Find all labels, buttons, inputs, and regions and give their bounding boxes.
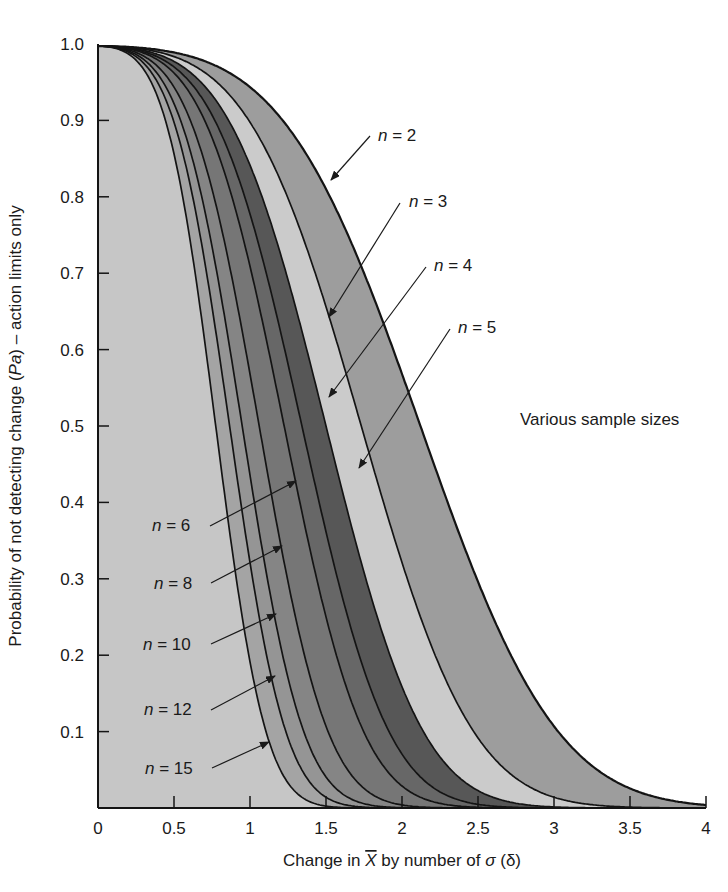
y-tick-label: 0.6 xyxy=(60,341,84,360)
y-tick-label: 0.1 xyxy=(60,723,84,742)
series-label-n-6: n = 6 xyxy=(152,516,190,535)
x-bar-symbol: X xyxy=(364,851,377,870)
y-tick-label: 0.2 xyxy=(60,646,84,665)
y-tick-label: 0.9 xyxy=(60,111,84,130)
series-label-n-5: n = 5 xyxy=(458,318,496,337)
y-tick-label: 0.3 xyxy=(60,570,84,589)
x-tick-label: 1.5 xyxy=(314,819,338,838)
x-tick-label: 1 xyxy=(245,819,254,838)
series-label-n-15: n = 15 xyxy=(145,759,193,778)
series-label-n-12: n = 12 xyxy=(144,700,192,719)
series-label-n-10: n = 10 xyxy=(143,635,191,654)
x-axis-title: Change in X by number of σ (δ) xyxy=(283,851,521,870)
y-tick-label: 0.5 xyxy=(60,417,84,436)
x-tick-label: 0 xyxy=(93,819,102,838)
series-label-n-2: n = 2 xyxy=(378,126,416,145)
y-axis-title: Probability of not detecting change (Pa)… xyxy=(6,205,25,647)
series-label-n-8: n = 8 xyxy=(154,574,192,593)
y-tick-label: 0.4 xyxy=(60,493,84,512)
x-tick-label: 2 xyxy=(397,819,406,838)
x-tick-label: 0.5 xyxy=(162,819,186,838)
various-sample-sizes-label: Various sample sizes xyxy=(520,410,679,429)
series-label-n-4: n = 4 xyxy=(434,256,472,275)
y-tick-label: 0.7 xyxy=(60,264,84,283)
x-tick-label: 3.5 xyxy=(618,819,642,838)
x-tick-label: 4 xyxy=(701,819,710,838)
series-label-n-3: n = 3 xyxy=(409,192,447,211)
oc-curve-chart: 00.511.522.533.540.10.20.30.40.50.60.70.… xyxy=(0,0,728,892)
y-tick-label: 0.8 xyxy=(60,188,84,207)
leader-arrow xyxy=(331,136,370,180)
x-tick-label: 3 xyxy=(549,819,558,838)
x-tick-label: 2.5 xyxy=(466,819,490,838)
y-tick-label: 1.0 xyxy=(60,35,84,54)
